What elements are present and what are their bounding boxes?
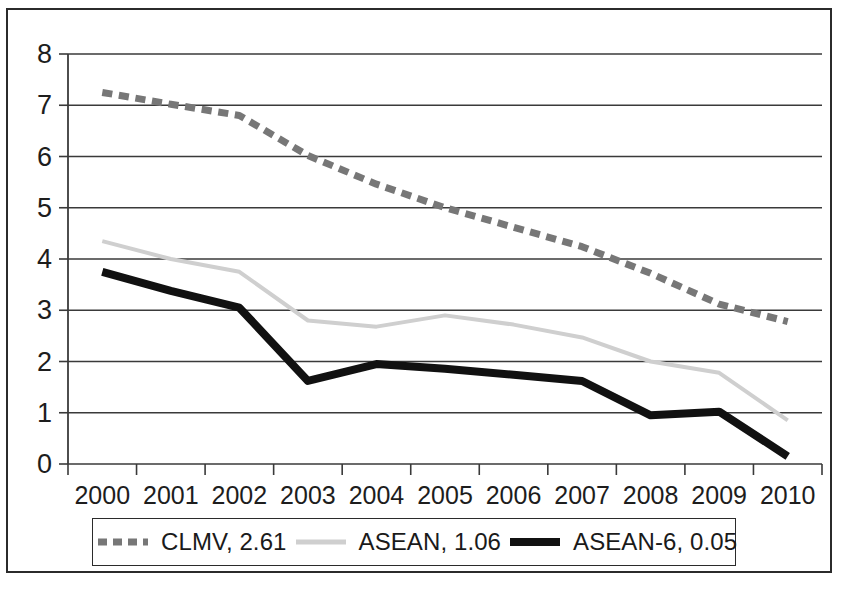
x-tick-label-2002: 2002 — [212, 481, 268, 509]
legend-item-asean-6: ASEAN-6, 0.05 — [505, 528, 741, 556]
x-tick-label-2001: 2001 — [143, 481, 199, 509]
x-tick-label-2000: 2000 — [74, 481, 130, 509]
chart-figure: 0123456782000200120022003200420052006200… — [6, 8, 832, 573]
solid-black-line-swatch — [509, 535, 561, 549]
legend-item-asean: ASEAN, 1.06 — [291, 528, 506, 556]
y-tick-label-8: 8 — [37, 39, 52, 69]
line-chart-canvas: 0123456782000200120022003200420052006200… — [8, 10, 830, 515]
series-line-asean-6 — [102, 272, 787, 457]
x-tick-label-2006: 2006 — [486, 481, 542, 509]
legend-label-clmv: CLMV, 2.61 — [161, 528, 287, 556]
y-tick-label-5: 5 — [37, 193, 52, 223]
legend-item-clmv: CLMV, 2.61 — [93, 528, 291, 556]
x-tick-label-2004: 2004 — [349, 481, 405, 509]
y-tick-label-0: 0 — [37, 449, 52, 479]
solid-lightgray-line-swatch — [295, 535, 347, 549]
series-line-asean — [102, 241, 787, 420]
legend-label-asean-6: ASEAN-6, 0.05 — [573, 528, 737, 556]
y-tick-label-6: 6 — [37, 142, 52, 172]
dashed-gray-line-swatch — [97, 535, 149, 549]
y-tick-label-7: 7 — [37, 90, 52, 120]
x-tick-label-2003: 2003 — [280, 481, 336, 509]
x-tick-label-2008: 2008 — [623, 481, 679, 509]
y-tick-label-4: 4 — [37, 244, 52, 274]
x-tick-label-2005: 2005 — [417, 481, 473, 509]
y-tick-label-1: 1 — [37, 398, 52, 428]
chart-legend: CLMV, 2.61 ASEAN, 1.06 ASEAN-6, 0.05 — [92, 518, 736, 566]
x-tick-label-2007: 2007 — [554, 481, 610, 509]
plot-area: 0123456782000200120022003200420052006200… — [8, 10, 830, 571]
y-tick-label-2: 2 — [37, 347, 52, 377]
series-line-clmv — [102, 92, 787, 321]
x-tick-label-2010: 2010 — [760, 481, 816, 509]
x-tick-label-2009: 2009 — [691, 481, 747, 509]
legend-label-asean: ASEAN, 1.06 — [359, 528, 502, 556]
y-tick-label-3: 3 — [37, 295, 52, 325]
